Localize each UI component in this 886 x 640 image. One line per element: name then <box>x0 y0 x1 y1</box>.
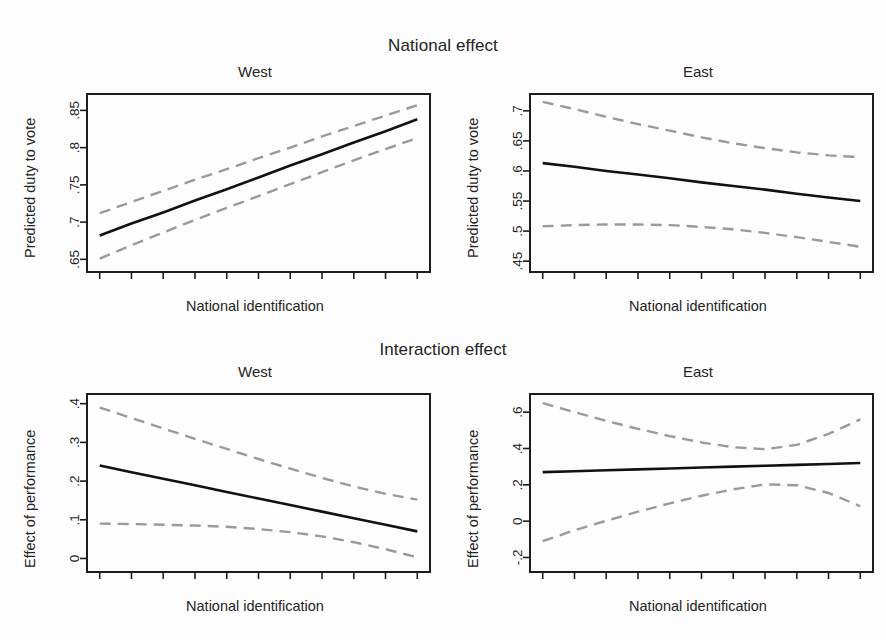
svg-text:.8: .8 <box>791 282 802 285</box>
panel-title-east: East <box>518 363 878 380</box>
plot-svg-interaction-east: 0.1.2.3.4.5.6.7.8.91-.20.2.4.6 <box>443 385 886 585</box>
svg-text:.4: .4 <box>664 282 676 285</box>
panel-title-east: East <box>518 63 878 80</box>
figure-root: National effect West Predicted duty to v… <box>0 0 886 640</box>
svg-text:.5: .5 <box>696 582 707 585</box>
svg-text:.5: .5 <box>253 282 264 285</box>
svg-text:.5: .5 <box>696 282 707 285</box>
panel-interaction-west: West Effect of performance 0.1.2.3.4.5.6… <box>0 330 443 640</box>
x-axis-title-national-identification: National identification <box>55 598 455 614</box>
plot-area-interaction-west: 0.1.2.3.4.5.6.7.8.910.1.2.3.4 <box>0 385 443 585</box>
svg-text:.4: .4 <box>511 442 526 454</box>
svg-text:.3: .3 <box>632 282 643 285</box>
svg-text:.1: .1 <box>126 582 137 585</box>
svg-text:1: 1 <box>414 282 422 285</box>
svg-text:.2: .2 <box>601 282 612 285</box>
panel-national-east: East Predicted duty to vote 0.1.2.3.4.5.… <box>443 0 886 330</box>
svg-text:.8: .8 <box>68 142 83 153</box>
svg-text:.3: .3 <box>189 282 200 285</box>
svg-text:.1: .1 <box>68 514 83 525</box>
svg-text:.2: .2 <box>511 479 526 490</box>
svg-text:.5: .5 <box>253 582 264 585</box>
svg-text:.75: .75 <box>68 175 83 194</box>
svg-text:.5: .5 <box>511 225 526 236</box>
svg-text:.2: .2 <box>158 282 169 285</box>
plot-area-national-east: 0.1.2.3.4.5.6.7.8.91.45.5.55.6.65.7 <box>443 85 886 285</box>
chart-block-interaction-effect: Interaction effect West Effect of perfor… <box>0 330 886 640</box>
svg-text:.9: .9 <box>380 282 391 285</box>
svg-text:0: 0 <box>539 582 547 585</box>
svg-text:0: 0 <box>96 282 104 285</box>
svg-text:.9: .9 <box>823 282 834 285</box>
plot-area-interaction-east: 0.1.2.3.4.5.6.7.8.91-.20.2.4.6 <box>443 385 886 585</box>
svg-text:0: 0 <box>511 517 526 525</box>
svg-text:.4: .4 <box>68 398 83 410</box>
svg-text:.1: .1 <box>569 582 580 585</box>
svg-text:.8: .8 <box>348 282 359 285</box>
svg-text:.3: .3 <box>632 582 643 585</box>
svg-text:.3: .3 <box>68 437 83 448</box>
plot-svg-national-east: 0.1.2.3.4.5.6.7.8.91.45.5.55.6.65.7 <box>443 85 886 285</box>
panel-title-west: West <box>75 363 435 380</box>
svg-text:.6: .6 <box>511 407 526 418</box>
svg-text:.2: .2 <box>601 582 612 585</box>
svg-text:.6: .6 <box>511 165 526 176</box>
svg-text:.45: .45 <box>511 252 526 271</box>
svg-text:.85: .85 <box>68 101 83 120</box>
svg-text:.8: .8 <box>348 582 359 585</box>
x-axis-title-national-identification: National identification <box>498 298 886 314</box>
svg-text:1: 1 <box>857 282 865 285</box>
svg-text:0: 0 <box>539 282 547 285</box>
plot-area-national-west: 0.1.2.3.4.5.6.7.8.91.65.7.75.8.85 <box>0 85 443 285</box>
svg-text:0: 0 <box>96 582 104 585</box>
panel-national-west: West Predicted duty to vote 0.1.2.3.4.5.… <box>0 0 443 330</box>
svg-text:.9: .9 <box>823 582 834 585</box>
svg-text:.55: .55 <box>511 192 526 211</box>
svg-text:.1: .1 <box>569 282 580 285</box>
svg-text:1: 1 <box>414 582 422 585</box>
svg-text:.7: .7 <box>68 216 83 227</box>
svg-text:.7: .7 <box>316 582 327 585</box>
svg-text:.4: .4 <box>221 282 233 285</box>
plot-svg-interaction-west: 0.1.2.3.4.5.6.7.8.910.1.2.3.4 <box>0 385 443 585</box>
svg-text:.7: .7 <box>316 282 327 285</box>
panel-interaction-east: East Effect of performance 0.1.2.3.4.5.6… <box>443 330 886 640</box>
svg-text:.6: .6 <box>285 582 296 585</box>
svg-text:.65: .65 <box>511 132 526 151</box>
svg-text:.4: .4 <box>664 582 676 585</box>
svg-text:.7: .7 <box>511 105 526 116</box>
svg-text:.1: .1 <box>126 282 137 285</box>
x-axis-title-national-identification: National identification <box>55 298 455 314</box>
svg-text:.6: .6 <box>728 282 739 285</box>
chart-block-national-effect: National effect West Predicted duty to v… <box>0 0 886 330</box>
svg-text:0: 0 <box>68 555 83 563</box>
svg-text:.4: .4 <box>221 582 233 585</box>
x-axis-title-national-identification: National identification <box>498 598 886 614</box>
svg-text:-.2: -.2 <box>511 550 526 566</box>
panel-title-west: West <box>75 63 435 80</box>
svg-text:.6: .6 <box>728 582 739 585</box>
svg-text:.8: .8 <box>791 582 802 585</box>
svg-text:.9: .9 <box>380 582 391 585</box>
plot-svg-national-west: 0.1.2.3.4.5.6.7.8.91.65.7.75.8.85 <box>0 85 443 285</box>
svg-text:.2: .2 <box>68 475 83 486</box>
svg-text:.7: .7 <box>759 582 770 585</box>
svg-text:.6: .6 <box>285 282 296 285</box>
svg-text:.7: .7 <box>759 282 770 285</box>
svg-text:.2: .2 <box>158 582 169 585</box>
svg-text:.3: .3 <box>189 582 200 585</box>
svg-text:.65: .65 <box>68 250 83 269</box>
svg-text:1: 1 <box>857 582 865 585</box>
